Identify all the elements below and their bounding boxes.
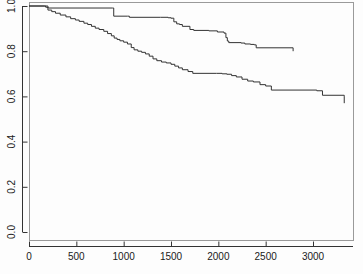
x-tick-label: 2000 (207, 251, 230, 262)
plot-canvas: 050010001500200025003000 0.00.20.40.60.8… (0, 0, 363, 274)
x-tick-label: 1500 (160, 251, 183, 262)
x-tick-label: 1000 (113, 251, 136, 262)
x-tick-label: 2500 (255, 251, 278, 262)
x-tick-label: 0 (26, 251, 32, 262)
x-tick-label: 500 (68, 251, 85, 262)
survival-plot-figure: 050010001500200025003000 0.00.20.40.60.8… (0, 0, 363, 274)
y-tick-label: 0.8 (6, 44, 17, 58)
y-tick-label: 0.6 (6, 89, 17, 103)
plot-background (0, 0, 363, 274)
y-tick-label: 0.4 (6, 134, 17, 148)
y-tick-label: 0.2 (6, 179, 17, 193)
y-tick-label: 0.0 (6, 225, 17, 239)
y-tick-label: 1.0 (6, 0, 17, 13)
x-tick-label: 3000 (302, 251, 325, 262)
